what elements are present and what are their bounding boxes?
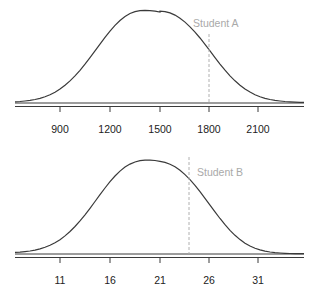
tick-label: 16 [104,274,116,286]
top-normal-curve [15,10,304,102]
top-student-a-label: Student A [193,17,239,29]
top-chart: Student A 900 1200 1500 1800 2100 [15,10,304,135]
chart-canvas: Student A 900 1200 1500 1800 2100 Studen… [0,0,316,301]
bottom-chart: Student B 11 16 21 26 31 [15,157,304,286]
tick-label: 31 [252,274,264,286]
bottom-normal-curve [15,160,304,254]
top-ticks [60,107,258,112]
tick-label: 900 [51,123,69,135]
tick-label: 26 [203,274,215,286]
bottom-ticks [60,258,258,263]
bottom-student-b-label: Student B [197,166,243,178]
tick-label: 1800 [197,123,221,135]
tick-label: 21 [154,274,166,286]
tick-label: 1200 [98,123,122,135]
tick-label: 2100 [246,123,270,135]
tick-label: 11 [55,274,66,286]
tick-label: 1500 [148,123,172,135]
top-tick-labels: 900 1200 1500 1800 2100 [51,123,270,135]
bottom-tick-labels: 11 16 21 26 31 [55,274,264,286]
